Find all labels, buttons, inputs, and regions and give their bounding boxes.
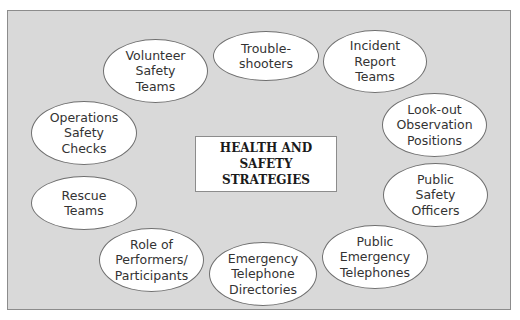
node-rescue-teams: Rescue Teams [31, 176, 137, 230]
node-label: Operations Safety Checks [50, 110, 119, 157]
node-label: Trouble- shooters [239, 41, 293, 72]
node-public-emergency-telephones: Public Emergency Telephones [322, 225, 428, 289]
node-emergency-telephone-directories: Emergency Telephone Directories [209, 242, 317, 306]
node-operations-safety-checks: Operations Safety Checks [31, 101, 137, 165]
node-label: Public Safety Officers [411, 172, 459, 219]
node-label: Look-out Observation Positions [396, 102, 472, 149]
node-volunteer-safety-teams: Volunteer Safety Teams [103, 39, 208, 103]
central-concept-box: HEALTH AND SAFETY STRATEGIES [195, 136, 337, 192]
node-role-of-performers-participants: Role of Performers/ Participants [99, 228, 204, 292]
node-trouble-shooters: Trouble- shooters [213, 31, 319, 81]
node-label: Emergency Telephone Directories [228, 251, 299, 298]
node-label: Volunteer Safety Teams [126, 48, 186, 95]
node-look-out-observation-positions: Look-out Observation Positions [382, 93, 487, 157]
node-label: Rescue Teams [62, 188, 107, 219]
node-label: Role of Performers/ Participants [115, 237, 188, 284]
node-incident-report-teams: Incident Report Teams [323, 30, 427, 93]
node-label: Public Emergency Telephones [340, 234, 411, 281]
node-label: Incident Report Teams [350, 38, 400, 85]
node-public-safety-officers: Public Safety Officers [383, 163, 488, 227]
